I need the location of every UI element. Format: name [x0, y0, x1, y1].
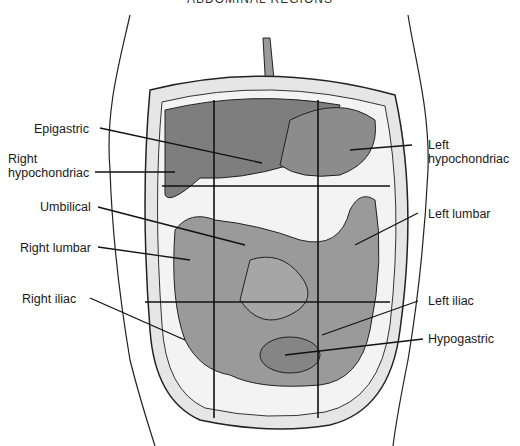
label-left-hypochondriac-line1: Left: [428, 138, 449, 152]
abdomen-illustration: [0, 0, 520, 446]
label-right-hypochondriac-line2: hypochondriac: [8, 166, 89, 180]
label-right-lumbar: Right lumbar: [20, 241, 91, 255]
label-left-lumbar: Left lumbar: [428, 207, 491, 221]
label-umbilical: Umbilical: [40, 200, 91, 214]
label-right-hypochondriac-line1: Right: [8, 152, 37, 166]
label-left-hypochondriac-line2: hypochondriac: [428, 152, 509, 166]
label-epigastric: Epigastric: [34, 122, 89, 136]
label-left-iliac: Left iliac: [428, 294, 474, 308]
label-right-iliac: Right iliac: [22, 292, 76, 306]
label-hypogastric: Hypogastric: [428, 332, 494, 346]
